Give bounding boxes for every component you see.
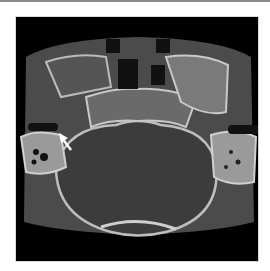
ct-scan-image: [16, 17, 259, 262]
top-divider: [0, 0, 270, 2]
ct-image-frame: [15, 16, 259, 262]
